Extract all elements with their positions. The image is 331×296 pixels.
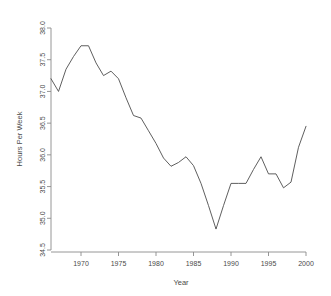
y-axis-tick-label: 36.5 bbox=[39, 116, 46, 130]
y-axis-tick-label: 36.0 bbox=[39, 148, 46, 162]
x-axis-tick-label: 1990 bbox=[223, 260, 239, 267]
y-axis-tick-label: 38.0 bbox=[39, 21, 46, 35]
x-axis-tick-label: 1985 bbox=[186, 260, 202, 267]
x-axis-tick-label: 1975 bbox=[111, 260, 127, 267]
y-axis-tick-label: 35.0 bbox=[39, 211, 46, 225]
y-axis-tick-label: 34.5 bbox=[39, 243, 46, 257]
y-axis-tick-label: 37.0 bbox=[39, 85, 46, 99]
y-axis-tick-label: 35.5 bbox=[39, 180, 46, 194]
x-axis-tick-label: 1970 bbox=[73, 260, 89, 267]
x-axis-tick-label: 1980 bbox=[148, 260, 164, 267]
chart-container: 34.535.035.536.036.537.037.538.0 Hours P… bbox=[0, 0, 331, 296]
y-axis-tick-label: 37.5 bbox=[39, 53, 46, 67]
y-axis-title: Hours Per Week bbox=[15, 111, 24, 166]
line-chart-plot: 34.535.035.536.036.537.037.538.0 Hours P… bbox=[0, 0, 331, 296]
x-axis-tick-label: 1995 bbox=[261, 260, 277, 267]
x-axis-tick-label: 2000 bbox=[298, 260, 314, 267]
x-axis-title: Year bbox=[173, 278, 189, 287]
